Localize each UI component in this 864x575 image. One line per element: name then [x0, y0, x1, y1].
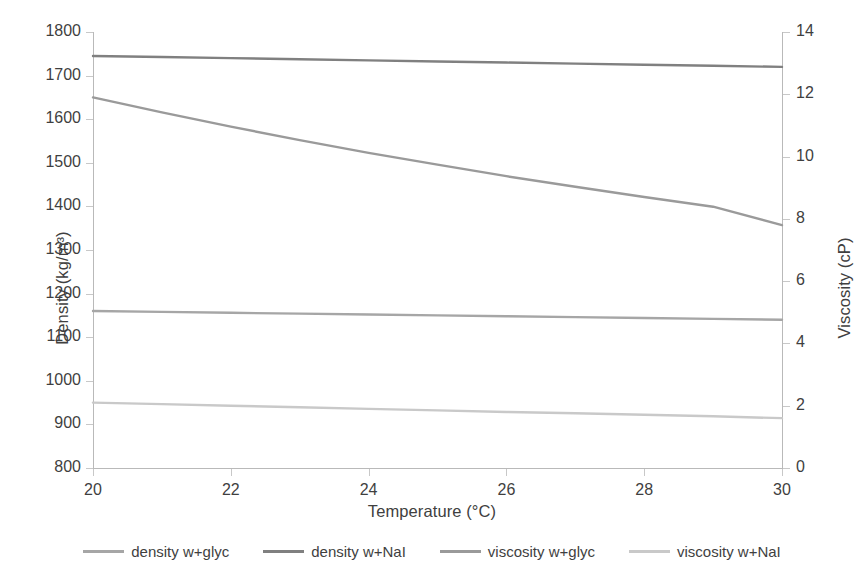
series-line: [93, 56, 782, 67]
legend-color-swatch: [83, 550, 124, 553]
chart-container: Density (kg/m³) Viscosity (cP) Temperatu…: [0, 0, 864, 575]
legend-label: density w+NaI: [311, 544, 406, 559]
legend-color-swatch: [629, 550, 670, 553]
plot-area: [0, 0, 864, 575]
series-line: [93, 311, 782, 320]
legend-label: density w+glyc: [131, 544, 229, 559]
legend-item[interactable]: density w+glyc: [66, 544, 246, 559]
legend-label: viscosity w+glyc: [488, 544, 595, 559]
legend-item[interactable]: density w+NaI: [246, 544, 423, 559]
legend-item[interactable]: viscosity w+NaI: [612, 544, 798, 559]
chart-legend: density w+glycdensity w+NaIviscosity w+g…: [0, 538, 864, 564]
series-line: [93, 97, 782, 225]
legend-color-swatch: [440, 550, 481, 553]
legend-item[interactable]: viscosity w+glyc: [423, 544, 612, 559]
legend-color-swatch: [263, 550, 304, 553]
series-line: [93, 403, 782, 419]
legend-label: viscosity w+NaI: [677, 544, 781, 559]
